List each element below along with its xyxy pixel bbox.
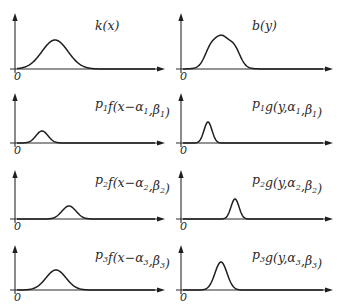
- curve-f1: [17, 131, 155, 143]
- origin-label: 0: [180, 220, 187, 233]
- panel-g2: 0p2g(y,α2,β2): [176, 170, 333, 233]
- origin-label: 0: [14, 70, 21, 83]
- origin-label: 0: [14, 144, 21, 157]
- panel-label-k: k(x): [95, 18, 120, 33]
- origin-label: 0: [14, 220, 21, 233]
- panel-label-f1: p1f(x−α1,β1): [95, 96, 170, 120]
- panel-f1: 0p1f(x−α1,β1): [10, 93, 170, 157]
- y-axis-arrow-icon: [12, 245, 17, 253]
- panel-b: 0b(y): [176, 13, 333, 83]
- y-axis-arrow-icon: [12, 170, 17, 178]
- panel-label-b: b(y): [252, 18, 277, 33]
- panel-label-g3: p3g(y,α3,β3): [252, 247, 322, 271]
- x-axis-arrow-icon: [325, 140, 333, 145]
- curve-b: [183, 35, 323, 69]
- origin-label: 0: [14, 291, 21, 304]
- curve-k: [17, 40, 155, 69]
- y-axis-arrow-icon: [178, 170, 183, 178]
- y-axis-arrow-icon: [178, 93, 183, 101]
- panel-g3: 0p3g(y,α3,β3): [176, 245, 333, 304]
- y-axis-arrow-icon: [178, 245, 183, 253]
- mixture-decomposition-diagram: 0k(x)0b(y)0p1f(x−α1,β1)0p1g(y,α1,β1)0p2f…: [0, 0, 341, 305]
- panel-f3: 0p3f(x−α3,β3): [10, 245, 170, 304]
- panel-label-g2: p2g(y,α2,β2): [252, 172, 322, 196]
- x-axis-arrow-icon: [325, 287, 333, 292]
- x-axis-arrow-icon: [325, 216, 333, 221]
- x-axis-arrow-icon: [157, 216, 165, 221]
- origin-label: 0: [180, 144, 187, 157]
- origin-label: 0: [180, 70, 187, 83]
- x-axis-arrow-icon: [157, 66, 165, 71]
- panel-g1: 0p1g(y,α1,β1): [176, 93, 333, 157]
- origin-label: 0: [180, 291, 187, 304]
- panel-f2: 0p2f(x−α2,β2): [10, 170, 170, 233]
- y-axis-arrow-icon: [12, 93, 17, 101]
- y-axis-arrow-icon: [178, 13, 183, 21]
- panel-k: 0k(x): [10, 13, 165, 83]
- x-axis-arrow-icon: [325, 66, 333, 71]
- curve-f3: [17, 270, 155, 290]
- curve-g1: [183, 122, 323, 143]
- x-axis-arrow-icon: [157, 287, 165, 292]
- panel-label-f2: p2f(x−α2,β2): [95, 172, 170, 196]
- panel-label-g1: p1g(y,α1,β1): [252, 96, 322, 120]
- x-axis-arrow-icon: [157, 140, 165, 145]
- curve-f2: [17, 206, 155, 219]
- panel-label-f3: p3f(x−α3,β3): [95, 247, 170, 271]
- y-axis-arrow-icon: [12, 13, 17, 21]
- curve-g2: [183, 199, 323, 219]
